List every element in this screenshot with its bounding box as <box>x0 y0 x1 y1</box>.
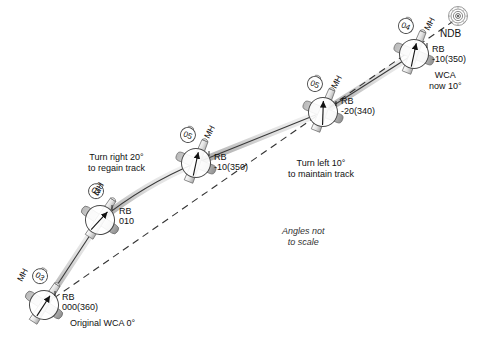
ndb-label: NDB <box>440 28 461 39</box>
rb-value-1: 000(360) <box>62 302 98 312</box>
adf-dial <box>177 144 215 182</box>
mh-label-1: MH <box>15 267 30 283</box>
wca-now-line2: now 10° <box>429 81 462 92</box>
rb-value-4: -20(340) <box>341 106 375 116</box>
turn-right-line2: to regain track <box>88 163 145 174</box>
rb-label-3: RB <box>214 152 248 162</box>
svg-text:MH: MH <box>15 267 30 283</box>
ndb-beacon-icon <box>449 7 468 26</box>
rb-value-3: -10(350) <box>214 162 248 172</box>
note-line1: Angles not <box>282 226 325 237</box>
mh-label-3: MH <box>202 124 217 140</box>
rb-label-2: RB <box>119 206 134 216</box>
original-wca-caption: Original WCA 0° <box>70 318 135 329</box>
angles-not-to-scale-note: Angles not to scale <box>282 226 325 248</box>
mh-label-4: MH <box>329 74 344 90</box>
mh-label-2: MH <box>91 181 106 197</box>
annotation-turn-left: Turn left 10° to maintain track <box>288 158 354 180</box>
turn-right-line1: Turn right 20° <box>88 152 145 163</box>
rb-label-4: RB <box>341 96 375 106</box>
rb-value-5: -10(350) <box>432 54 466 64</box>
note-line2: to scale <box>282 237 325 248</box>
rb-callout-5: RB -10(350) <box>432 44 466 64</box>
rb-label-5: RB <box>432 44 466 54</box>
wca-now-line1: WCA <box>429 70 462 81</box>
rb-value-2: 010 <box>119 216 134 226</box>
rb-label-1: RB <box>62 292 98 302</box>
heading-indicator-4: 05 <box>305 73 325 94</box>
turn-left-line2: to maintain track <box>288 169 354 180</box>
turn-left-line1: Turn left 10° <box>288 158 354 169</box>
svg-text:MH: MH <box>202 124 217 140</box>
heading-indicator-3: 05 <box>178 124 198 145</box>
mh-label-5: MH <box>422 16 437 32</box>
flown-track-bars <box>44 54 414 305</box>
rb-callout-4: RB -20(340) <box>341 96 375 116</box>
heading-indicator-5: 04 <box>396 15 416 36</box>
heading-indicator-1: 03 <box>30 265 52 287</box>
annotation-turn-right: Turn right 20° to regain track <box>88 152 145 174</box>
rb-callout-2: RB 010 <box>119 206 134 226</box>
wca-now-caption: WCA now 10° <box>429 70 462 92</box>
rb-callout-3: RB -10(350) <box>214 152 248 172</box>
svg-text:MH: MH <box>422 16 437 32</box>
svg-text:MH: MH <box>329 74 344 90</box>
svg-text:MH: MH <box>91 181 106 197</box>
adf-dial <box>395 35 433 73</box>
rb-callout-1: RB 000(360) <box>62 292 98 312</box>
adf-dial <box>304 93 342 131</box>
